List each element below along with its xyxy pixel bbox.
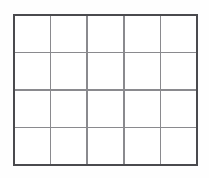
- grid-cell-r4-c5[interactable]: [161, 128, 196, 164]
- grid-cell-r4-c3[interactable]: [88, 128, 123, 164]
- grid-cell-r2-c5[interactable]: [161, 53, 196, 89]
- figure-canvas: [0, 0, 209, 178]
- grid-cell-r3-c3[interactable]: [88, 91, 123, 127]
- grid-cell-r2-c1[interactable]: [15, 53, 50, 89]
- grid-cell-r2-c2[interactable]: [51, 53, 86, 89]
- grid-cell-r4-c1[interactable]: [15, 128, 50, 164]
- grid-cell-r1-c4[interactable]: [125, 16, 160, 52]
- grid-cell-r1-c2[interactable]: [51, 16, 86, 52]
- grid-cell-r1-c1[interactable]: [15, 16, 50, 52]
- grid-cell-r2-c3[interactable]: [88, 53, 123, 89]
- grid-cell-r3-c5[interactable]: [161, 91, 196, 127]
- grid-cell-r3-c2[interactable]: [51, 91, 86, 127]
- grid-table[interactable]: [13, 14, 198, 166]
- grid-cell-r1-c5[interactable]: [161, 16, 196, 52]
- grid-cell-r4-c4[interactable]: [125, 128, 160, 164]
- grid-cell-r2-c4[interactable]: [125, 53, 160, 89]
- grid-cell-r3-c1[interactable]: [15, 91, 50, 127]
- grid-cell-r3-c4[interactable]: [125, 91, 160, 127]
- grid-cell-r4-c2[interactable]: [51, 128, 86, 164]
- grid-cell-r1-c3[interactable]: [88, 16, 123, 52]
